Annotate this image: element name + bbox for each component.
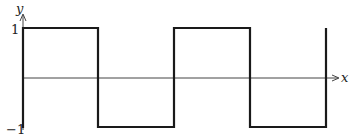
y-axis-label: y xyxy=(15,1,24,16)
y-tick-label-1: 1 xyxy=(11,22,19,37)
y-tick-label-neg1: −1 xyxy=(6,122,25,137)
square-wave-chart: y 1 −1 x xyxy=(0,0,354,140)
x-axis-label: x xyxy=(341,70,349,85)
